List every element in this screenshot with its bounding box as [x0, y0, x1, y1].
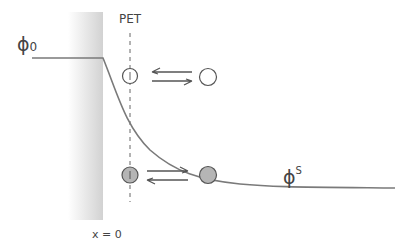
electrode-region: [68, 12, 103, 220]
equilibrium-arrows-top: [152, 68, 192, 85]
phis-superscript: S: [296, 165, 302, 176]
pet-label: PET: [119, 12, 141, 26]
equilibrium-arrows-bottom: [147, 167, 188, 184]
open-circle-bulk: [200, 69, 217, 86]
phis-symbol: ϕ: [283, 166, 296, 188]
phi0-label: ϕ0: [17, 33, 37, 55]
phis-label: ϕS: [283, 166, 302, 188]
phi0-subscript: 0: [30, 40, 38, 54]
x-origin-label: x = 0: [92, 228, 122, 241]
diagram-canvas: [0, 0, 413, 249]
filled-circle-bulk: [200, 167, 217, 184]
phi0-symbol: ϕ: [17, 33, 30, 55]
